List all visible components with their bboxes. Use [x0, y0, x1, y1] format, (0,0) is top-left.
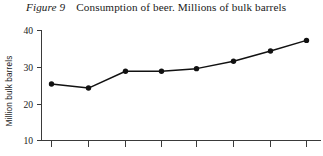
- y-tick-label-30: 30: [23, 62, 33, 73]
- data-point: [231, 59, 236, 64]
- y-axis-ticks: [37, 31, 42, 141]
- data-point: [304, 38, 309, 43]
- y-axis-title: Million bulk barrels: [5, 56, 14, 127]
- data-point: [159, 69, 164, 74]
- line-chart: 40 30 20 10 Million bulk barrels: [0, 0, 323, 156]
- x-axis-ticks: [52, 141, 307, 147]
- y-axis-tick-labels: 40 30 20 10: [23, 25, 33, 146]
- data-point: [49, 81, 54, 86]
- y-tick-label-40: 40: [23, 25, 33, 36]
- data-point: [268, 48, 273, 53]
- y-tick-label-20: 20: [23, 99, 33, 110]
- y-tick-label-10: 10: [23, 135, 33, 146]
- data-point: [123, 69, 128, 74]
- data-point: [86, 85, 91, 90]
- series-markers: [49, 38, 309, 91]
- figure-container: Figure 9Consumption of beer. Millions of…: [0, 0, 323, 156]
- series-line: [52, 40, 307, 88]
- data-point: [194, 66, 199, 71]
